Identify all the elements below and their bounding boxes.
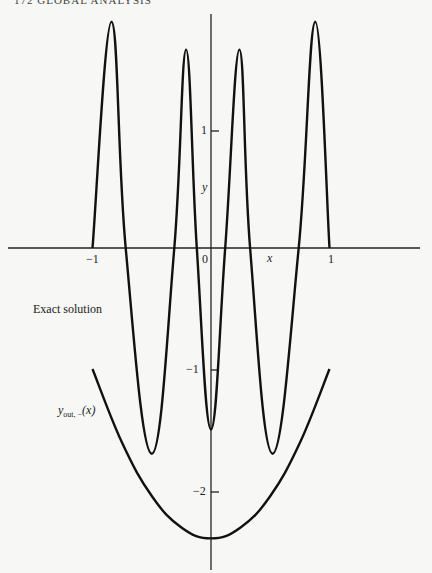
x-tick-label-0: 0 (202, 252, 208, 267)
x-tick-label-neg1: −1 (86, 252, 99, 267)
y-tick-label-1: 1 (201, 123, 207, 138)
x-axis-label: x (267, 251, 272, 266)
plot-area (0, 0, 432, 573)
yout-label-arg: (x) (82, 403, 95, 417)
exact-solution-label: Exact solution (33, 302, 102, 317)
yout-label-sub: out, − (63, 410, 82, 419)
yout-label: yout, −(x) (58, 403, 95, 419)
x-tick-label-1: 1 (328, 252, 334, 267)
y-tick-label-neg1: −1 (186, 362, 199, 377)
axes (8, 14, 420, 570)
y-tick-label-neg2: −2 (193, 484, 206, 499)
y-axis-label: y (202, 180, 207, 195)
